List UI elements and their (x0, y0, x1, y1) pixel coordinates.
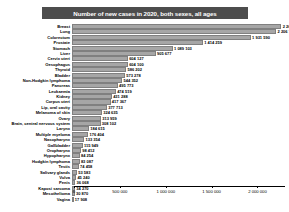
category-label: Multiple myeloma (0, 132, 72, 137)
x-axis-tick (74, 186, 75, 188)
category-label: Larynx (0, 126, 72, 131)
category-label: Gallbladder (0, 143, 72, 148)
bar-track: 573 278 (72, 73, 289, 78)
bar-track: 74 458 (72, 164, 289, 169)
category-label: Leukaemia (0, 89, 72, 94)
bar-row: Salivary glands53 583 (0, 170, 289, 175)
bar-track: 604 127 (72, 56, 289, 61)
bar-track: 98 412 (72, 148, 289, 153)
bar (72, 126, 89, 131)
x-axis-tick-label: 0 (73, 189, 75, 194)
bar (72, 180, 75, 185)
category-label: Oropharynx (0, 148, 72, 153)
bar-track: 36 068 (72, 180, 289, 185)
bar (72, 159, 80, 164)
bar (72, 148, 81, 153)
bar-track: 45 240 (72, 175, 289, 180)
bar-track: 308 102 (72, 121, 289, 126)
bar-track: 83 087 (72, 159, 289, 164)
bar-value-label: 74 458 (80, 164, 92, 169)
bar (72, 132, 88, 137)
bar-value-label: 2 206 771 (278, 29, 289, 34)
bar-row: Nasopharynx133 354 (0, 137, 289, 142)
bar-value-label: 1 931 590 (252, 35, 270, 40)
x-axis: 0500 0001 000 0001 500 0002 000 000 (74, 186, 285, 208)
bar-value-label: 115 949 (84, 143, 98, 148)
category-label: Lip, oral cavity (0, 105, 72, 110)
bar-value-label: 573 278 (126, 73, 140, 78)
bar (72, 29, 276, 34)
bar-rows: Breast2 261 419Lung2 206 771Colorectum1 … (0, 24, 289, 186)
bar (72, 94, 112, 99)
category-label: Prostate (0, 40, 72, 45)
category-label: Pancreas (0, 83, 72, 88)
chart-title-band: Number of new cases in 2020, both sexes,… (42, 7, 248, 19)
category-label: Penis (0, 180, 72, 185)
category-label: Kaposi sarcoma (0, 186, 72, 191)
bar-value-label: 417 367 (112, 99, 126, 104)
bar-track: 544 352 (72, 78, 289, 83)
bar (72, 46, 173, 51)
bar-row: Kidney431 288 (0, 94, 289, 99)
category-label: Vulva (0, 175, 72, 180)
bar-track: 604 100 (72, 62, 289, 67)
bar-value-label: 98 412 (82, 148, 94, 153)
bar (72, 78, 122, 83)
bar (72, 105, 107, 110)
category-label: Melanoma of skin (0, 110, 72, 115)
bar-track: 2 206 771 (72, 29, 289, 34)
bar-value-label: 176 404 (90, 132, 104, 137)
x-axis-tick-label: 1 500 000 (202, 189, 221, 194)
bar-row: Gallbladder115 949 (0, 143, 289, 148)
bar-value-label: 377 713 (108, 105, 122, 110)
bar (72, 89, 116, 94)
bar-track: 1 414 259 (72, 40, 289, 45)
bar-row: Non-Hodgkin lymphoma544 352 (0, 78, 289, 83)
bar (72, 73, 125, 78)
bar-track: 417 367 (72, 99, 289, 104)
bar-value-label: 324 635 (103, 110, 117, 115)
bar-value-label: 308 102 (102, 121, 116, 126)
bar-value-label: 2 261 419 (283, 24, 289, 29)
bar-track: 586 202 (72, 67, 289, 72)
bar (72, 40, 203, 45)
bar-value-label: 313 959 (102, 116, 116, 121)
bar-track: 905 677 (72, 51, 289, 56)
bar-value-label: 1 089 103 (174, 46, 192, 51)
bar (72, 116, 101, 121)
bar-row: Vulva45 240 (0, 175, 289, 180)
bar-value-label: 905 677 (157, 51, 171, 56)
bar-track: 115 949 (72, 143, 289, 148)
bar-row: Melanoma of skin324 635 (0, 110, 289, 115)
category-label: Kidney (0, 94, 72, 99)
x-axis-tick (257, 186, 258, 188)
category-label: Non-Hodgkin lymphoma (0, 78, 72, 83)
category-label: Nasopharynx (0, 137, 72, 142)
category-label: Hypopharynx (0, 153, 72, 158)
bar-track: 431 288 (72, 94, 289, 99)
bar (72, 110, 102, 115)
category-label: Bladder (0, 73, 72, 78)
bar (72, 175, 76, 180)
bar-row: Hodgkin lymphoma83 087 (0, 159, 289, 164)
bar-value-label: 604 127 (129, 56, 143, 61)
x-axis-line (74, 186, 285, 187)
category-label: Lung (0, 29, 72, 34)
bar (72, 67, 126, 72)
bar-track: 184 615 (72, 126, 289, 131)
bar-row: Breast2 261 419 (0, 24, 289, 29)
category-label: Vagina (0, 197, 72, 202)
bar-row: Oesophagus604 100 (0, 62, 289, 67)
bar-row: Testis74 458 (0, 164, 289, 169)
bar-track: 2 261 419 (72, 24, 289, 29)
x-axis-tick (166, 186, 167, 188)
bar (72, 121, 101, 126)
x-axis-tick-label: 2 000 000 (248, 189, 267, 194)
category-label: Stomach (0, 46, 72, 51)
bar-row: Pancreas495 773 (0, 83, 289, 88)
bar-row: Corpus uteri417 367 (0, 99, 289, 104)
category-label: Breast (0, 24, 72, 29)
category-label: Cervix uteri (0, 56, 72, 61)
bar-row: Cervix uteri604 127 (0, 56, 289, 61)
bar-row: Leukaemia474 519 (0, 89, 289, 94)
